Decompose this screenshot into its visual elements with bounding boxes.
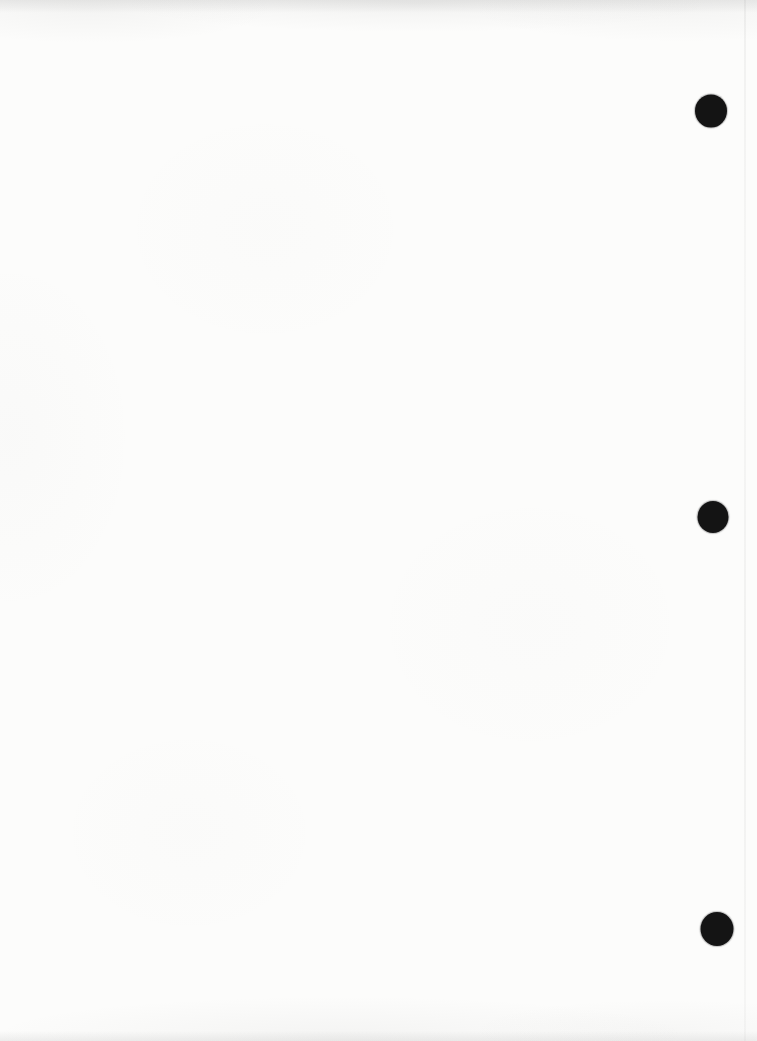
page-bottom-edge-shadow (0, 1031, 757, 1041)
scanned-page (0, 0, 757, 1041)
punch-hole (701, 912, 734, 946)
page-top-edge-shadow (0, 0, 757, 13)
page-right-scan-line (744, 0, 746, 1041)
punch-hole (695, 95, 727, 128)
scanned-document-viewport (0, 0, 757, 1041)
punch-hole (698, 501, 729, 533)
